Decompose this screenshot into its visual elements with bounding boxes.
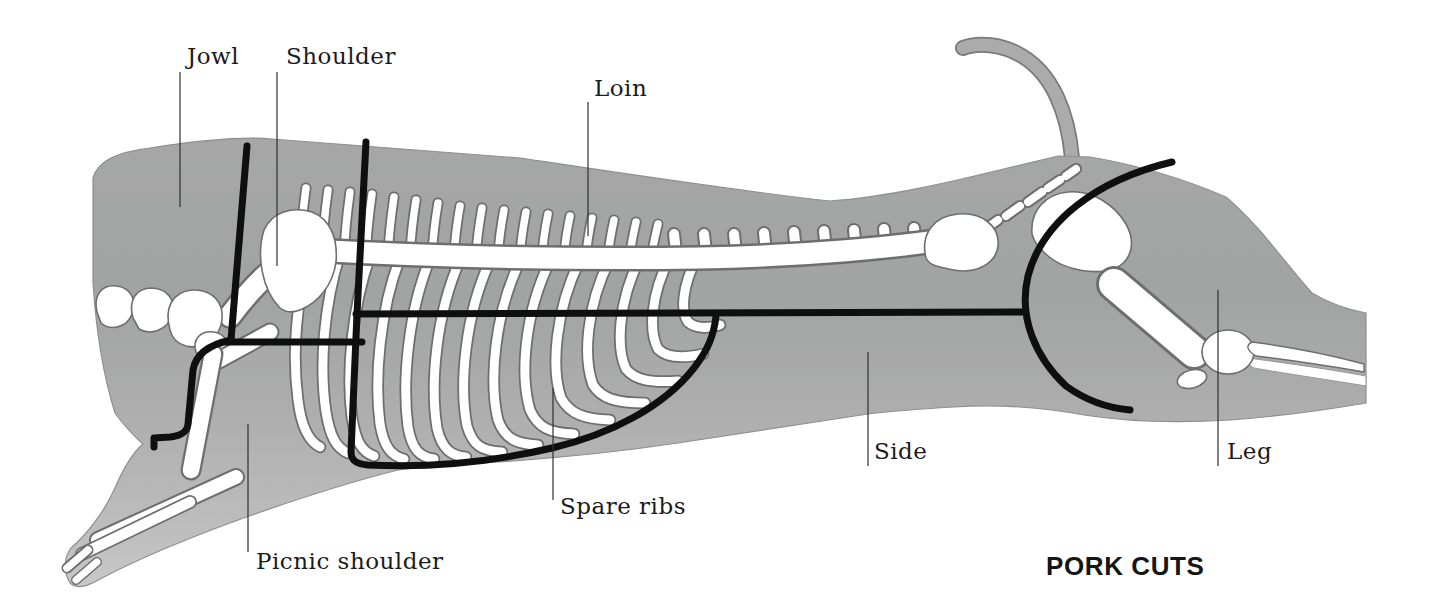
label-side: Side — [874, 439, 927, 464]
pork-cuts-diagram: Jowl Shoulder Loin Spare ribs Picnic sho… — [0, 0, 1441, 603]
label-loin: Loin — [594, 76, 647, 101]
label-jowl: Jowl — [187, 44, 239, 69]
pig-body-texture — [65, 138, 1366, 586]
label-picnic-shoulder: Picnic shoulder — [256, 549, 444, 574]
cut-line-loin-side-horizontal — [356, 312, 1024, 314]
label-spare-ribs: Spare ribs — [560, 494, 686, 519]
pig-illustration — [0, 0, 1441, 603]
label-leg: Leg — [1227, 439, 1272, 464]
diagram-title: PORK CUTS — [1046, 551, 1205, 582]
label-shoulder: Shoulder — [286, 44, 396, 69]
